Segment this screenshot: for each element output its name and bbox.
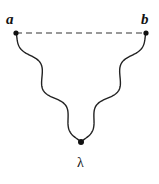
vertex-b (143, 30, 148, 35)
feynman-diagram: a b λ (0, 0, 159, 184)
vertex-lambda (78, 139, 84, 145)
label-b: b (141, 11, 149, 27)
label-a: a (6, 11, 14, 27)
label-lambda: λ (77, 155, 84, 170)
vertex-a (13, 30, 18, 35)
wavy-line-b-lambda (81, 33, 146, 142)
wavy-line-a-lambda (16, 33, 81, 142)
